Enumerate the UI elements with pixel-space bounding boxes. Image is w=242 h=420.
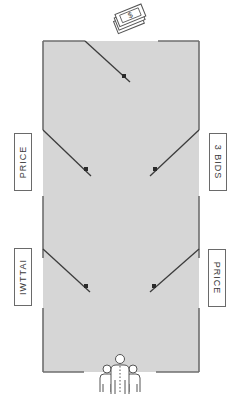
money-stack-icon: $ (111, 4, 148, 34)
door-right-upper-knob (153, 167, 157, 171)
label-left-upper: PRICE (14, 133, 32, 191)
label-left-lower-text: IWTTAI (18, 259, 28, 295)
door-top-knob (122, 74, 126, 78)
door-left-lower-knob (84, 284, 88, 288)
door-right-lower-knob (152, 284, 156, 288)
label-right-upper: 3 BIDS (209, 133, 227, 191)
label-left-lower: IWTTAI (14, 248, 32, 306)
room-floorplan: $ (0, 0, 242, 420)
label-right-lower-text: PRICE (212, 262, 222, 295)
label-right-upper-text: 3 BIDS (213, 145, 223, 180)
door-left-upper-knob (84, 167, 88, 171)
label-left-upper-text: PRICE (18, 146, 28, 179)
room-floor (43, 41, 199, 372)
label-right-lower: PRICE (208, 249, 226, 307)
negotiation-room-diagram: $ PRICE IWTTAI 3 BIDS (0, 0, 242, 420)
